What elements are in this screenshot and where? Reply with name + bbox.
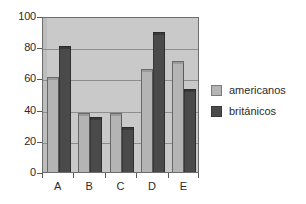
bar-front-face (78, 116, 90, 172)
x-axis-tick-label: E (180, 180, 187, 192)
bar-front-face (110, 116, 122, 172)
x-axis-tick-label: C (117, 180, 125, 192)
y-axis-tick-label: 100 (0, 11, 36, 22)
x-axis: ABCDE (42, 173, 199, 203)
bar (184, 89, 196, 172)
x-axis-tick-label: D (148, 180, 156, 192)
legend-label: americanos (229, 84, 286, 97)
legend-swatch (211, 85, 222, 96)
bar (122, 127, 134, 172)
chart-legend: americanosbritánicos (211, 84, 303, 124)
bar (110, 113, 122, 172)
y-axis-tick-label: 40 (0, 105, 36, 116)
bar (141, 69, 153, 172)
x-axis-tick-mark (73, 173, 74, 178)
bar-front-face (59, 49, 71, 172)
bar (47, 77, 59, 172)
bars-layer (43, 18, 198, 172)
bar-front-face (153, 35, 165, 172)
legend-label: británicos (229, 105, 276, 118)
legend-item: británicos (211, 105, 303, 119)
bar-chart-figure: 020406080100 ABCDE americanosbritánicos (0, 0, 306, 204)
bar (153, 32, 165, 172)
bar (59, 46, 71, 172)
plot-area (42, 17, 199, 173)
bar (78, 113, 90, 172)
y-axis-tick-label: 20 (0, 136, 36, 147)
bar-front-face (172, 64, 184, 172)
y-axis-tick-label: 0 (0, 167, 36, 178)
x-axis-tick-mark (168, 173, 169, 178)
bar (172, 61, 184, 172)
x-axis-tick-mark (136, 173, 137, 178)
legend-swatch (211, 106, 222, 117)
x-axis-tick-label: A (54, 180, 61, 192)
bar-front-face (141, 72, 153, 172)
bar-front-face (90, 120, 102, 172)
x-axis-tick-label: B (85, 180, 92, 192)
legend-item: americanos (211, 84, 303, 98)
bar-front-face (184, 92, 196, 172)
x-axis-tick-mark (198, 173, 199, 178)
bar (90, 117, 102, 172)
y-axis: 020406080100 (0, 0, 36, 204)
x-axis-tick-mark (42, 173, 43, 178)
y-axis-tick-label: 80 (0, 42, 36, 53)
bar-front-face (122, 130, 134, 172)
bar-front-face (47, 80, 59, 172)
y-axis-tick-label: 60 (0, 73, 36, 84)
x-axis-tick-mark (105, 173, 106, 178)
